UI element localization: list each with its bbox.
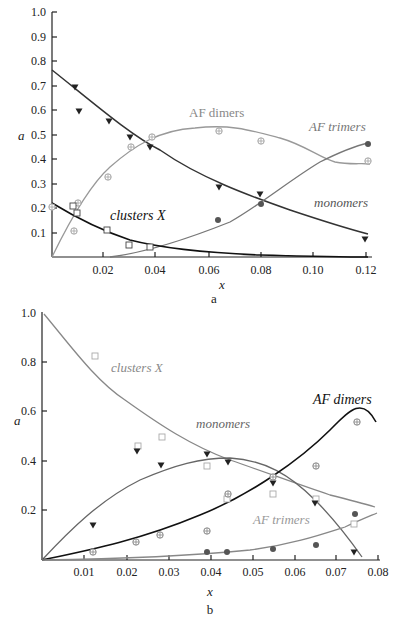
ytick-label: 0.2 (21, 503, 36, 517)
xtick-label: 0.10 (303, 263, 324, 277)
panel-b-xticks: 0.01 0.02 0.03 0.04 0.05 0.06 0.07 0.08 (74, 565, 389, 579)
panel-caption: a (211, 291, 217, 306)
xtick-label: 0.06 (199, 263, 220, 277)
panel-a: 1.0 0.9 0.8 0.7 0.6 0.5 0.4 0.3 0.2 0.1 … (18, 5, 377, 306)
label-af-trimers: AF trimers (308, 119, 366, 134)
panel-a-xticks: 0.02 0.04 0.06 0.08 0.10 0.12 (93, 263, 377, 277)
ytick-label: 0.6 (31, 103, 46, 117)
label-af-trimers: AF trimers (252, 512, 310, 527)
xtick-label: 0.02 (93, 263, 114, 277)
ytick-label: 1.0 (31, 5, 46, 19)
xtick-label: 0.08 (368, 565, 389, 579)
ytick-label: 0.7 (31, 79, 46, 93)
figure: 1.0 0.9 0.8 0.7 0.6 0.5 0.4 0.3 0.2 0.1 … (0, 0, 412, 632)
figure-svg: 1.0 0.9 0.8 0.7 0.6 0.5 0.4 0.3 0.2 0.1 … (0, 0, 412, 632)
curve-clusters-x-b (44, 314, 375, 507)
label-clusters-x: clusters X (111, 360, 164, 375)
x-axis-label: x (206, 584, 213, 599)
curve-af-dimers-a (52, 127, 370, 257)
label-clusters-x: clusters X (110, 208, 166, 223)
panel-b-yticks: 1.0 0.8 0.6 0.4 0.2 (21, 306, 36, 517)
panel-a-yticks: 1.0 0.9 0.8 0.7 0.6 0.5 0.4 0.3 0.2 0.1 (31, 5, 46, 240)
xtick-label: 0.06 (285, 565, 306, 579)
ytick-label: 0.2 (31, 201, 46, 215)
label-monomers: monomers (314, 195, 368, 210)
ytick-label: 0.5 (31, 128, 46, 142)
xtick-label: 0.12 (356, 263, 377, 277)
xtick-label: 0.08 (251, 263, 272, 277)
xtick-label: 0.05 (243, 565, 264, 579)
label-af-dimers: AF dimers (189, 105, 244, 120)
panel-a-axes (52, 12, 372, 257)
xtick-label: 0.07 (326, 565, 347, 579)
x-axis-label: x (218, 277, 225, 292)
ytick-label: 0.8 (31, 54, 46, 68)
panel-b: 1.0 0.8 0.6 0.4 0.2 a 0.01 0.02 0.03 0.0… (14, 306, 389, 617)
ytick-label: 0.6 (21, 404, 36, 418)
ytick-label: 0.3 (31, 177, 46, 191)
ytick-label: 0.4 (21, 454, 36, 468)
panel-caption: b (207, 602, 214, 617)
ytick-label: 0.4 (31, 152, 46, 166)
xtick-label: 0.04 (145, 263, 166, 277)
xtick-label: 0.01 (74, 565, 95, 579)
label-monomers: monomers (196, 416, 250, 431)
ytick-label: 0.9 (31, 30, 46, 44)
label-af-dimers: AF dimers (312, 392, 372, 407)
ytick-label: 0.1 (31, 226, 46, 240)
xtick-label: 0.04 (201, 565, 222, 579)
y-axis-label: a (14, 413, 21, 428)
y-axis-label: a (18, 128, 25, 143)
ytick-label: 0.8 (21, 355, 36, 369)
xtick-label: 0.03 (159, 565, 180, 579)
xtick-label: 0.02 (117, 565, 138, 579)
ytick-label: 1.0 (21, 306, 36, 320)
